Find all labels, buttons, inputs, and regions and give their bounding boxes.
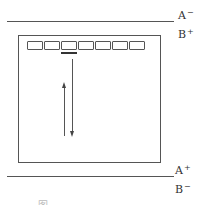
label-top-a: A− [178,7,194,21]
well-1 [27,41,43,50]
label-letter: B [175,183,183,196]
label-top-b: B+ [178,26,194,40]
gel-box [18,35,161,163]
well-6 [112,41,128,50]
label-letter: A [175,164,183,177]
well-5 [95,41,111,50]
well-3-underline [61,52,77,54]
well-2 [44,41,60,50]
arrow-down-head-icon [70,131,74,137]
figure-caption: 图 ─ ─ ─ ─ ─ ─ ─ ─ [38,197,163,205]
arrow-up-shaft [64,88,65,136]
bottom-electrode-line [7,176,174,177]
label-sign: − [184,182,191,191]
label-sign: − [187,8,194,17]
label-bottom-a: A+ [175,162,191,176]
label-letter: B [178,28,186,41]
well-4 [78,41,94,50]
well-3 [61,41,77,50]
label-letter: A [178,9,186,22]
well-7 [129,41,145,50]
label-bottom-b: B− [175,181,191,195]
arrow-down-shaft [72,59,73,131]
label-sign: + [187,27,194,36]
label-sign: + [184,163,191,172]
top-electrode-line [7,21,174,22]
